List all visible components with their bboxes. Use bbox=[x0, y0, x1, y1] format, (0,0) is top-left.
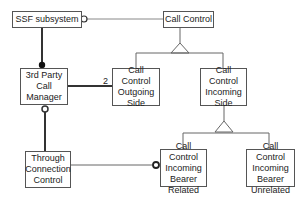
bearer-unrelated-box[interactable]: Call Control Incoming Bearer Unrelated bbox=[246, 149, 295, 187]
third-party-call-manager-box[interactable]: 3rd Party Call Manager bbox=[20, 68, 68, 105]
through-connection-control-label: Through Connection Control bbox=[25, 153, 71, 186]
bearer-related-box[interactable]: Call Control Incoming Bearer Related bbox=[160, 149, 207, 187]
call-control-incoming-box[interactable]: Call Control Incoming Side bbox=[200, 68, 247, 106]
multiplicity-label: 2 bbox=[103, 76, 108, 86]
through-connection-control-box[interactable]: Through Connection Control bbox=[25, 151, 71, 188]
bearer-unrelated-label: Call Control Incoming Bearer Unrelated bbox=[247, 141, 294, 196]
call-control-outgoing-box[interactable]: Call Control Outgoing Side bbox=[112, 68, 160, 106]
open-circle-icon bbox=[153, 162, 159, 168]
ssf-subsystem-label: SSF subsystem bbox=[15, 14, 78, 25]
call-control-label: Call Control bbox=[165, 14, 212, 25]
call-control-incoming-label: Call Control Incoming Side bbox=[201, 65, 246, 109]
ssf-subsystem-box[interactable]: SSF subsystem bbox=[12, 11, 82, 28]
generalization-triangle-icon bbox=[171, 43, 189, 53]
open-circle-icon bbox=[42, 106, 48, 112]
generalization-triangle-icon bbox=[215, 121, 233, 132]
call-control-outgoing-label: Call Control Outgoing Side bbox=[113, 65, 159, 109]
third-party-call-manager-label: 3rd Party Call Manager bbox=[25, 70, 63, 103]
call-control-box[interactable]: Call Control bbox=[163, 11, 214, 28]
bearer-related-label: Call Control Incoming Bearer Related bbox=[161, 141, 206, 196]
